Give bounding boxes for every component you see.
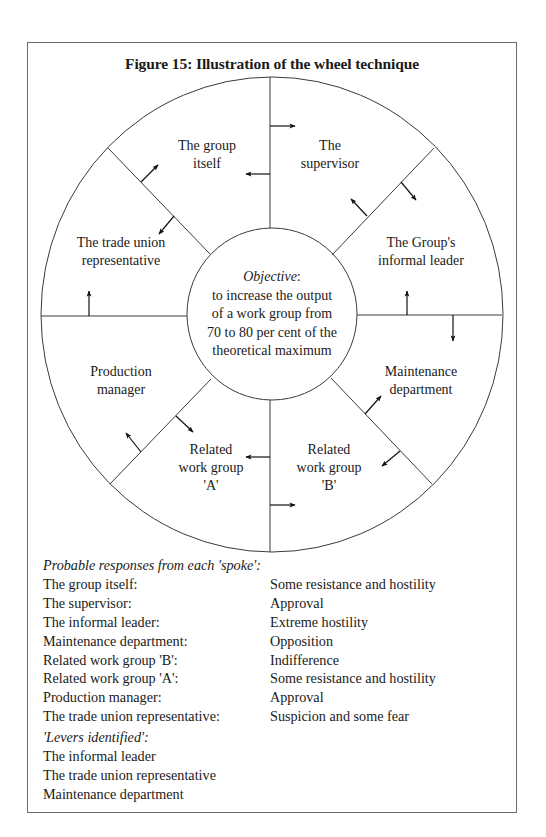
- segment-group-itself: The group itself: [178, 137, 236, 173]
- response-row: The supervisor: Approval: [43, 594, 436, 613]
- segment-informal-leader: The Group's informal leader: [378, 234, 464, 270]
- lever-item: The informal leader: [43, 747, 216, 766]
- arrow-icon: [141, 165, 158, 182]
- arrow-icon: [401, 182, 416, 200]
- lever-item: Maintenance department: [43, 785, 216, 804]
- arrow-icon: [365, 396, 381, 414]
- segment-maintenance-department: Maintenance department: [385, 363, 457, 399]
- arrow-icon: [351, 199, 367, 216]
- responses-header: Probable responses from each 'spoke':: [43, 556, 436, 575]
- segment-work-group-b: Related work group 'B': [297, 441, 362, 495]
- objective-label: Objective: [243, 269, 297, 284]
- response-row: The informal leader: Extreme hostility: [43, 613, 436, 632]
- objective-line: theoretical maximum: [207, 342, 337, 361]
- response-row: The group itself: Some resistance and ho…: [43, 575, 436, 594]
- response-row: The trade union representative: Suspicio…: [43, 707, 436, 726]
- arrow-icon: [176, 416, 193, 432]
- segment-production-manager: Production manager: [90, 363, 151, 399]
- objective-line: to increase the output: [207, 286, 337, 305]
- levers-section: 'Levers identified': The informal leader…: [43, 728, 216, 804]
- response-row: Production manager: Approval: [43, 688, 436, 707]
- objective-hub: Objective: to increase the output of a w…: [207, 268, 337, 361]
- response-row: Maintenance department: Opposition: [43, 632, 436, 651]
- levers-header: 'Levers identified':: [43, 728, 216, 747]
- response-row: Related work group 'A': Some resistance …: [43, 669, 436, 688]
- arrow-icon: [126, 433, 141, 452]
- objective-line: 70 to 80 per cent of the: [207, 323, 337, 342]
- arrow-icon: [159, 216, 174, 234]
- objective-line: of a work group from: [207, 305, 337, 324]
- responses-section: Probable responses from each 'spoke': Th…: [43, 556, 436, 726]
- segment-work-group-a: Related work group 'A': [179, 441, 244, 495]
- segment-trade-union-representative: The trade union representative: [77, 234, 166, 270]
- lever-item: The trade union representative: [43, 766, 216, 785]
- arrow-icon: [382, 451, 400, 466]
- response-row: Related work group 'B': Indifference: [43, 651, 436, 670]
- segment-supervisor: The supervisor: [301, 137, 359, 173]
